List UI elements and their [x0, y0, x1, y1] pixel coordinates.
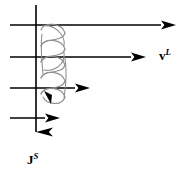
horizontal-arrow-group — [10, 25, 161, 118]
helix-turn-back-5 — [43, 97, 65, 103]
helix-envelope-left-mid — [44, 52, 64, 70]
spin-current-label: JS — [27, 152, 38, 166]
diagram-canvas — [0, 0, 186, 175]
spin-current-label-superscript: S — [34, 151, 39, 161]
velocity-label-superscript: L — [166, 47, 171, 57]
spin-current-figure: vL JS — [0, 0, 186, 175]
velocity-label: vL — [159, 48, 171, 62]
helix-envelope-left-long — [41, 34, 43, 74]
